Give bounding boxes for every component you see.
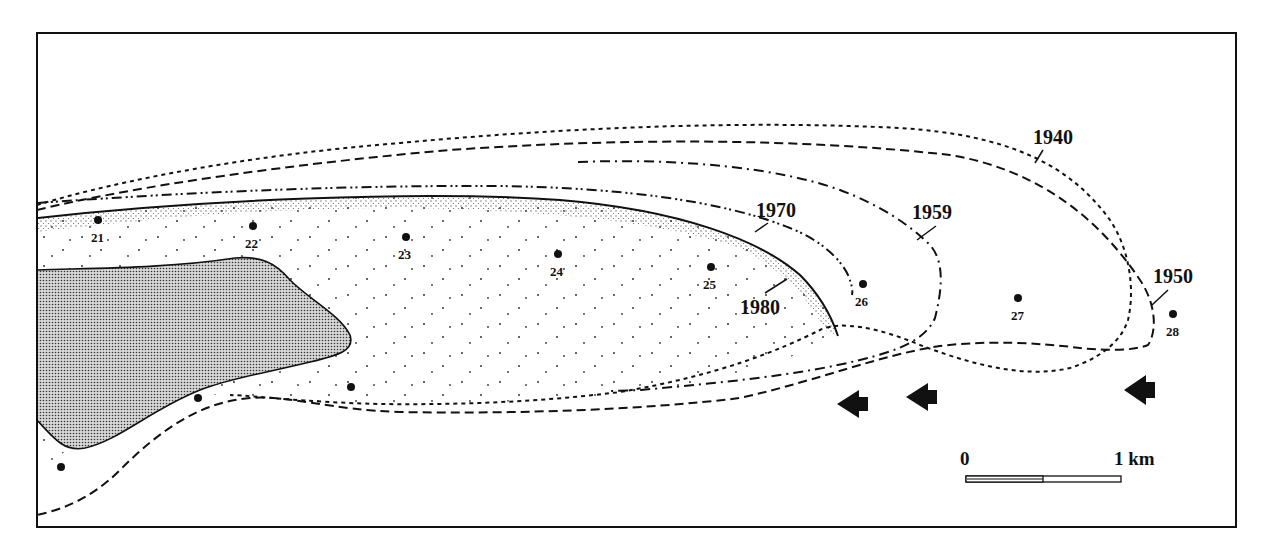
label-1940: 1940 xyxy=(1033,126,1073,148)
site-marker-22 xyxy=(249,222,257,230)
site-marker-unlabeled xyxy=(347,383,355,391)
site-marker-26 xyxy=(859,280,867,288)
site-label-22: 22 xyxy=(245,236,258,251)
site-marker-unlabeled xyxy=(194,394,202,402)
site-marker-23 xyxy=(402,233,410,241)
site-marker-25 xyxy=(707,263,715,271)
site-label-27: 27 xyxy=(1011,308,1025,323)
site-label-26: 26 xyxy=(855,294,869,309)
site-label-25: 25 xyxy=(703,277,717,292)
site-marker-unlabeled xyxy=(57,463,65,471)
label-1980: 1980 xyxy=(740,296,780,318)
label-1970: 1970 xyxy=(756,199,796,221)
site-label-21: 21 xyxy=(91,230,104,245)
site-marker-28 xyxy=(1169,310,1177,318)
site-label-24: 24 xyxy=(550,264,564,279)
scale-end-label: 1 km xyxy=(1114,448,1155,469)
site-label-28: 28 xyxy=(1166,324,1180,339)
site-label-23: 23 xyxy=(398,247,412,262)
glacier-retreat-map: 1940 1950 1959 1970 1980 21 22 23 24 25 … xyxy=(0,0,1274,556)
label-1950: 1950 xyxy=(1153,265,1193,287)
label-1959: 1959 xyxy=(912,201,952,223)
scale-start-label: 0 xyxy=(960,448,970,469)
site-marker-21 xyxy=(94,216,102,224)
site-marker-27 xyxy=(1014,294,1022,302)
site-marker-24 xyxy=(554,250,562,258)
